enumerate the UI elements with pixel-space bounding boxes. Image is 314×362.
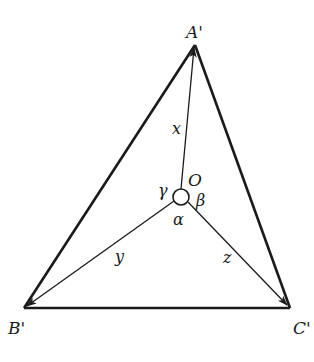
side-a-b <box>24 45 195 308</box>
label-alpha: α <box>173 210 184 229</box>
label-y: y <box>114 247 125 266</box>
side-a-c <box>195 45 290 308</box>
label-a-prime: A' <box>184 22 203 42</box>
vector-x <box>181 48 194 189</box>
angle-circle <box>173 189 189 205</box>
vector-y <box>27 201 174 306</box>
diagram-canvas: A' B' C' O x y z γ β α <box>0 0 314 362</box>
label-beta: β <box>195 191 205 210</box>
label-b-prime: B' <box>7 318 25 338</box>
label-x: x <box>172 119 181 138</box>
triangle-diagram: A' B' C' O x y z γ β α <box>0 0 314 362</box>
label-o: O <box>188 170 202 190</box>
label-c-prime: C' <box>293 318 311 338</box>
label-z: z <box>222 248 232 267</box>
label-gamma: γ <box>158 181 168 200</box>
vector-z <box>188 202 287 305</box>
